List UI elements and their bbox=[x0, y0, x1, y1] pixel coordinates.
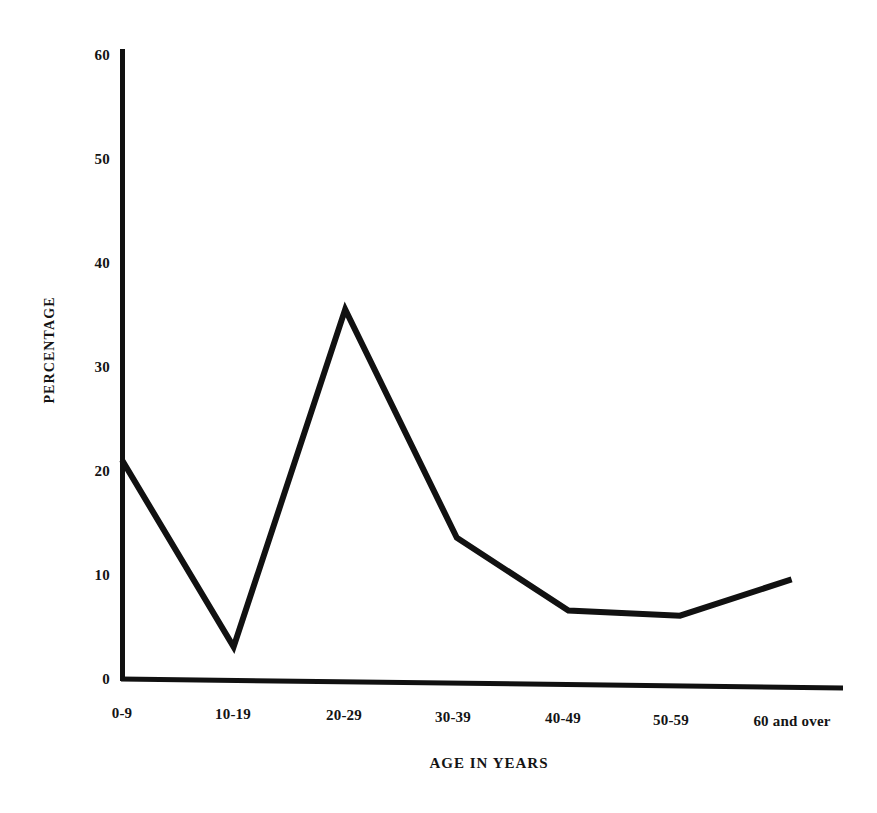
x-tick-label-30-39: 30-39 bbox=[435, 710, 471, 725]
x-axis-tick-labels: 0-9 10-19 20-29 30-39 40-49 50-59 60 and… bbox=[0, 0, 877, 813]
line-chart-figure: 60 50 40 30 20 10 0 0-9 10-19 20-29 30-3… bbox=[0, 0, 877, 813]
x-tick-label-40-49: 40-49 bbox=[545, 711, 581, 726]
y-axis-title: PERCENTAGE bbox=[42, 296, 58, 403]
x-tick-label-0-9: 0-9 bbox=[112, 706, 133, 721]
x-tick-label-20-29: 20-29 bbox=[326, 708, 362, 723]
x-tick-label-10-19: 10-19 bbox=[215, 707, 251, 722]
x-axis-title: AGE IN YEARS bbox=[430, 755, 549, 772]
x-tick-label-50-59: 50-59 bbox=[653, 713, 689, 728]
x-tick-label-60-and-over: 60 and over bbox=[753, 714, 830, 729]
